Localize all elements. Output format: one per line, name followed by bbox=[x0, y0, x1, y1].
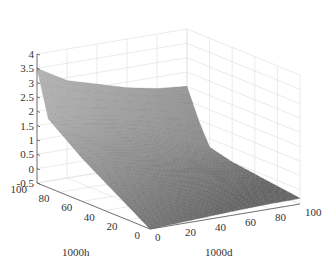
z-tick bbox=[37, 126, 40, 127]
z-tick-label: 1 bbox=[29, 134, 35, 146]
x-axis-label: 1000d bbox=[205, 246, 233, 258]
y-tick-label: 100 bbox=[11, 183, 28, 195]
y-tick-label: 20 bbox=[106, 220, 118, 232]
y-tick-label: 60 bbox=[61, 201, 73, 213]
z-tick bbox=[37, 83, 40, 84]
gridline bbox=[187, 86, 300, 132]
z-tick-label: 1.5 bbox=[20, 120, 34, 132]
z-tick-label: 4 bbox=[29, 48, 35, 60]
x-tick-label: 20 bbox=[185, 226, 197, 238]
z-tick-label: 2 bbox=[29, 105, 35, 117]
z-tick bbox=[37, 154, 40, 155]
gridline bbox=[187, 43, 300, 89]
z-tick bbox=[37, 183, 40, 184]
x-tick-label: 60 bbox=[245, 216, 257, 228]
z-tick bbox=[37, 169, 40, 170]
x-tick-label: 100 bbox=[305, 206, 322, 218]
z-tick-label: 0.5 bbox=[20, 148, 34, 160]
z-tick-label: 3.5 bbox=[20, 62, 34, 74]
y-tick-label: 80 bbox=[39, 192, 51, 204]
x-tick-label: 0 bbox=[155, 231, 161, 243]
z-tick-label: 2.5 bbox=[20, 91, 34, 103]
surface bbox=[37, 68, 300, 229]
z-tick-label: 0 bbox=[29, 163, 35, 175]
gridline bbox=[187, 58, 300, 104]
y-axis-label: 1000h bbox=[62, 246, 90, 258]
surface-plot: -0.500.511.522.533.540204060801000204060… bbox=[0, 0, 328, 274]
z-tick-label: 3 bbox=[29, 77, 35, 89]
x-tick-label: 80 bbox=[275, 211, 287, 223]
z-tick bbox=[37, 54, 40, 55]
gridline bbox=[187, 29, 300, 75]
gridline bbox=[37, 43, 187, 68]
z-tick bbox=[37, 111, 40, 112]
y-tick-label: 40 bbox=[84, 211, 96, 223]
gridline bbox=[37, 29, 187, 54]
y-tick-label: 0 bbox=[135, 229, 141, 241]
z-tick bbox=[37, 140, 40, 141]
z-tick bbox=[37, 97, 40, 98]
x-tick-label: 40 bbox=[215, 221, 227, 233]
gridline bbox=[187, 72, 300, 118]
